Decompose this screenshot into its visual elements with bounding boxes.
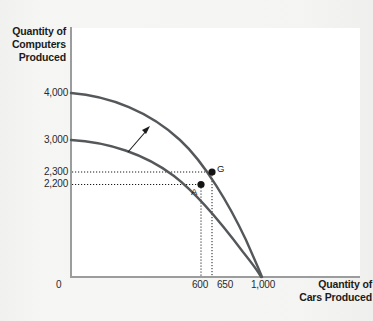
chart-curves	[0, 0, 373, 321]
data-point-G	[208, 168, 215, 175]
ppf-curve-original	[71, 140, 261, 277]
data-point-A	[197, 181, 204, 188]
data-point-label-G: G	[217, 163, 224, 174]
data-point-label-A: A	[191, 186, 197, 197]
chart-figure: Quantity of Computers Produced Quantity …	[0, 0, 373, 321]
growth-arrow-icon	[128, 126, 150, 152]
